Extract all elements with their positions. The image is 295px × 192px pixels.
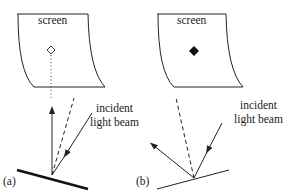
hollow-diamond-spot xyxy=(47,46,55,54)
screen-label-a: screen xyxy=(38,14,68,26)
screen-label-b: screen xyxy=(177,14,207,26)
beam-label-a-2: light beam xyxy=(90,116,139,129)
normal-dashed-a xyxy=(52,98,74,175)
beam-label-b-1: incident xyxy=(240,99,278,111)
mirror-b xyxy=(157,170,229,189)
panel-label-b: (b) xyxy=(136,175,150,188)
panel-a: screen incident light beam (a) xyxy=(3,14,139,189)
reflection-diagram: screen incident light beam (a) screen in… xyxy=(0,0,295,192)
incident-beam-a xyxy=(66,113,92,154)
filled-diamond-spot xyxy=(189,46,199,56)
panel-b: screen incident light beam (b) xyxy=(136,14,283,189)
beam-label-a-1: incident xyxy=(96,102,134,114)
incident-beam-b xyxy=(208,123,222,150)
beam-label-b-2: light beam xyxy=(234,113,283,126)
panel-label-a: (a) xyxy=(3,175,16,188)
